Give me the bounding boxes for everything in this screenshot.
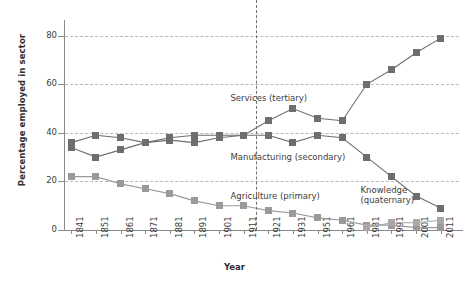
y-tick-40 [58, 133, 65, 134]
marker-services-2011 [437, 35, 444, 42]
knowledge-label-line: (quaternary) [361, 195, 415, 205]
x-axis-title: Year [0, 262, 469, 272]
marker-manufacturing-1891 [191, 132, 198, 139]
manufacturing-label-line: Manufacturing (secondary) [230, 152, 345, 162]
marker-manufacturing-1931 [289, 139, 296, 146]
y-tick-label-60: 60 [31, 78, 57, 88]
x-tick-1841 [71, 230, 72, 234]
marker-knowledge-1981 [363, 224, 370, 231]
knowledge-label: Knowledge(quaternary) [361, 185, 415, 205]
marker-agriculture-1841 [68, 173, 75, 180]
marker-services-1861 [117, 146, 124, 153]
marker-agriculture-1901 [216, 202, 223, 209]
marker-agriculture-1871 [142, 185, 149, 192]
x-tick-1891 [194, 230, 195, 234]
marker-manufacturing-1991 [388, 173, 395, 180]
marker-services-1851 [92, 154, 99, 161]
x-tick-1901 [219, 230, 220, 234]
y-axis-title: Percentage employed in sector [17, 15, 27, 205]
services-label: Services (tertiary) [230, 93, 307, 103]
marker-agriculture-1951 [314, 214, 321, 221]
x-tick-1911 [244, 230, 245, 234]
y-tick-label-20: 20 [31, 175, 57, 185]
x-tick-1961 [342, 230, 343, 234]
marker-services-1901 [216, 134, 223, 141]
chart-figure: Percentage employed in sector Year 02040… [0, 0, 469, 284]
marker-agriculture-1931 [289, 210, 296, 217]
y-tick-60 [58, 84, 65, 85]
marker-agriculture-1911 [240, 202, 247, 209]
y-tick-label-40: 40 [31, 127, 57, 137]
x-tick-1851 [96, 230, 97, 234]
marker-services-1951 [314, 115, 321, 122]
marker-agriculture-2011 [437, 224, 444, 231]
marker-services-1981 [363, 81, 370, 88]
marker-knowledge-2011 [437, 217, 444, 224]
marker-knowledge-1991 [388, 219, 395, 226]
x-tick-1861 [121, 230, 122, 234]
y-tick-20 [58, 181, 65, 182]
marker-services-1891 [191, 139, 198, 146]
marker-agriculture-1961 [339, 217, 346, 224]
marker-services-1871 [142, 139, 149, 146]
x-tick-1871 [145, 230, 146, 234]
y-tick-label-0: 0 [31, 224, 57, 234]
marker-agriculture-1861 [117, 180, 124, 187]
marker-services-1841 [68, 144, 75, 151]
marker-agriculture-1921 [265, 207, 272, 214]
marker-agriculture-1851 [92, 173, 99, 180]
marker-manufacturing-2011 [437, 205, 444, 212]
services-label-line: Services (tertiary) [230, 93, 307, 103]
marker-agriculture-1881 [166, 190, 173, 197]
knowledge-label-line: Knowledge [361, 185, 415, 195]
marker-services-1921 [265, 117, 272, 124]
marker-services-1931 [289, 105, 296, 112]
x-tick-1881 [170, 230, 171, 234]
y-tick-80 [58, 36, 65, 37]
marker-services-2001 [413, 49, 420, 56]
marker-services-1881 [166, 137, 173, 144]
marker-services-1961 [339, 117, 346, 124]
marker-manufacturing-1961 [339, 134, 346, 141]
marker-services-1991 [388, 66, 395, 73]
manufacturing-label: Manufacturing (secondary) [230, 152, 345, 162]
y-tick-label-80: 80 [31, 30, 57, 40]
marker-manufacturing-1981 [363, 154, 370, 161]
plot-area: 020406080 184118511861187118811891190119… [65, 26, 459, 230]
marker-manufacturing-1951 [314, 132, 321, 139]
x-tick-1951 [318, 230, 319, 234]
agriculture-label-line: Agriculture (primary) [230, 191, 319, 201]
agriculture-label: Agriculture (primary) [230, 191, 319, 201]
y-tick-0 [58, 230, 65, 231]
marker-manufacturing-1861 [117, 134, 124, 141]
marker-agriculture-1891 [191, 197, 198, 204]
x-tick-1991 [391, 230, 392, 234]
marker-knowledge-2001 [413, 219, 420, 226]
x-tick-1921 [268, 230, 269, 234]
x-tick-1931 [293, 230, 294, 234]
marker-services-1911 [240, 132, 247, 139]
marker-manufacturing-1921 [265, 132, 272, 139]
marker-manufacturing-1851 [92, 132, 99, 139]
